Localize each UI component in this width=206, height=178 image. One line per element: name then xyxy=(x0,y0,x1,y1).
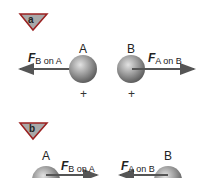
force-label-b-b-on-a: FB on A xyxy=(61,160,95,172)
badge-a-label: a xyxy=(28,15,34,25)
charge-b: + xyxy=(128,88,135,100)
badge-b-label: b xyxy=(29,124,35,134)
force-label-b-on-a: FB on A xyxy=(28,52,62,64)
force-label-b-a-on-b: FA on B xyxy=(121,160,155,172)
sphere-b-label-b: B xyxy=(164,150,172,162)
sphere-b-label: B xyxy=(127,43,135,55)
sphere-a-label-b: A xyxy=(42,150,50,162)
sphere-a-label: A xyxy=(79,43,87,55)
force-label-a-on-b: FA on B xyxy=(148,52,182,64)
diagram-graphics xyxy=(0,0,206,178)
charge-a: + xyxy=(80,88,87,100)
sphere-a xyxy=(69,55,97,83)
sphere-a-b xyxy=(32,166,60,178)
sphere-b-b xyxy=(154,166,182,178)
